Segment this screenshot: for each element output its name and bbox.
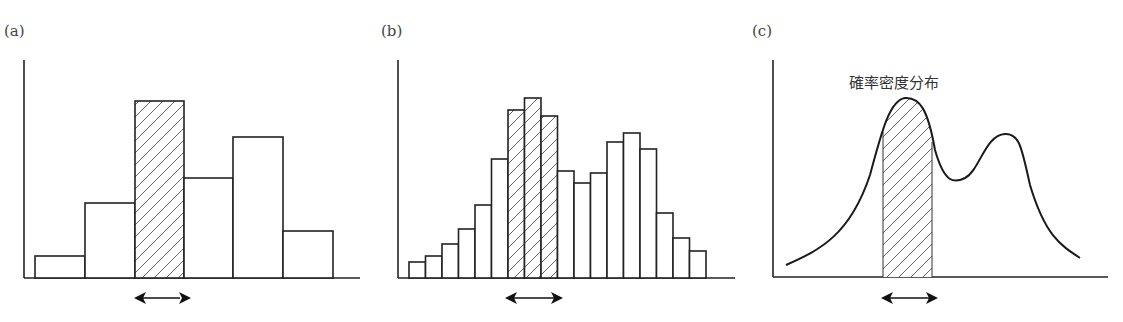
hatched-area: [883, 60, 932, 277]
panel-c-label: (c): [752, 22, 772, 40]
panel-b-label: (b): [381, 22, 402, 40]
bar: [574, 183, 591, 278]
histogram-bars: [409, 98, 706, 278]
bar: [624, 133, 641, 278]
bar: [85, 203, 135, 278]
bar: [657, 213, 674, 278]
histogram-bars: [35, 101, 333, 278]
bar: [283, 231, 333, 278]
density-curve: [786, 98, 1080, 265]
bar: [459, 229, 476, 278]
bar: [690, 251, 707, 278]
interval-arrow-icon: [881, 292, 938, 304]
panel-c: (c) 確率密度分布: [752, 22, 1108, 304]
bar: [558, 171, 575, 278]
bar: [475, 205, 492, 278]
panel-a: (a): [4, 22, 360, 304]
figure: (a) (b): [0, 0, 1123, 322]
bar-highlighted: [135, 101, 184, 278]
panel-a-label: (a): [4, 22, 25, 40]
bar: [591, 173, 608, 278]
bar: [673, 238, 690, 278]
bar-highlighted: [525, 98, 542, 278]
bar: [35, 256, 85, 278]
probability-density-label: 確率密度分布: [849, 74, 939, 92]
bar: [426, 256, 443, 278]
interval-arrow-icon: [505, 292, 563, 304]
bar-highlighted: [508, 110, 525, 278]
bar: [409, 262, 426, 278]
bar-highlighted: [541, 116, 558, 278]
interval-arrow-icon: [134, 292, 191, 304]
bar: [492, 159, 509, 278]
bar: [184, 178, 233, 278]
bar: [442, 244, 459, 278]
bar: [607, 142, 624, 278]
panel-b: (b): [381, 22, 735, 304]
bar: [640, 149, 657, 278]
bar: [233, 137, 283, 278]
